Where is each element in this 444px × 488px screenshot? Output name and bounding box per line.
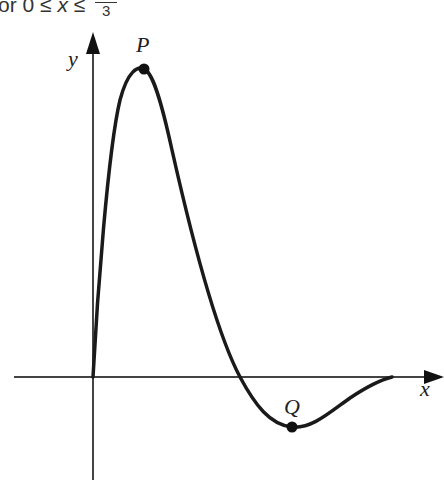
y-axis-label: y (66, 46, 78, 71)
point-q-label: Q (284, 394, 300, 419)
point-p-marker (139, 64, 150, 75)
function-graph: P Q y x (0, 0, 444, 488)
point-p-label: P (135, 32, 149, 57)
function-curve (93, 68, 392, 427)
x-axis-label: x (419, 376, 430, 401)
point-q-marker (287, 422, 298, 433)
y-axis-arrow-icon (86, 32, 100, 54)
